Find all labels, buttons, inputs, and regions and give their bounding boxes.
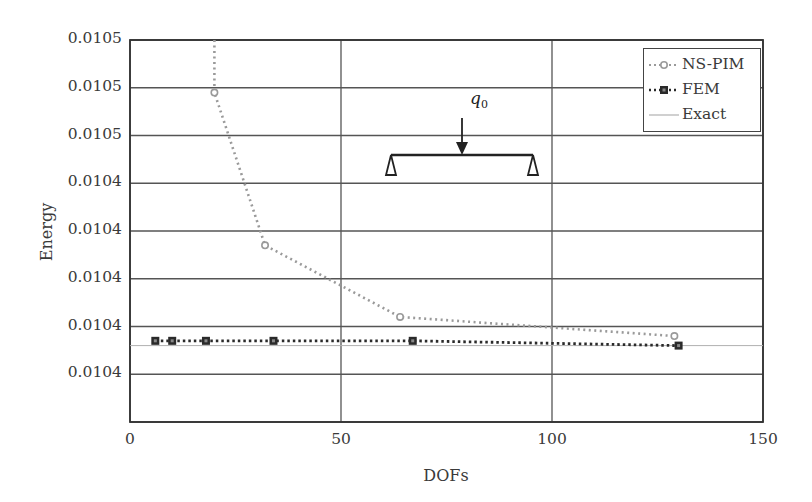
x-tick-label: 0 [125,430,135,448]
x-tick-label: 150 [748,430,778,448]
x-tick-label: 50 [331,430,351,448]
legend-label: FEM [682,80,720,98]
legend-item-fem: FEM [644,78,760,102]
y-tick-label: 0.0104 [40,172,122,190]
y-tick-label: 0.0104 [40,316,122,334]
solid-line-icon [648,108,680,122]
square-marker-icon [648,83,680,97]
y-tick-label: 0.0105 [40,125,122,143]
beam-diagram [386,118,538,175]
legend-label: NS-PIM [682,55,744,73]
x-axis-label: DOFs [423,466,468,485]
legend: NS-PIM FEM Exact [643,48,761,132]
y-axis-label: Energy [37,203,56,261]
legend-label: Exact [682,105,726,123]
y-tick-label: 0.0105 [40,29,122,47]
legend-item-ns-pim: NS-PIM [644,53,760,77]
load-symbol: q [470,88,481,108]
legend-item-exact: Exact [644,103,760,127]
y-tick-label: 0.0104 [40,363,122,381]
load-subscript: 0 [481,98,488,111]
x-tick-label: 100 [537,430,567,448]
load-label: q0 [470,88,488,111]
circle-marker-icon [648,58,680,72]
y-tick-label: 0.0104 [40,268,122,286]
y-tick-label: 0.0105 [40,77,122,95]
